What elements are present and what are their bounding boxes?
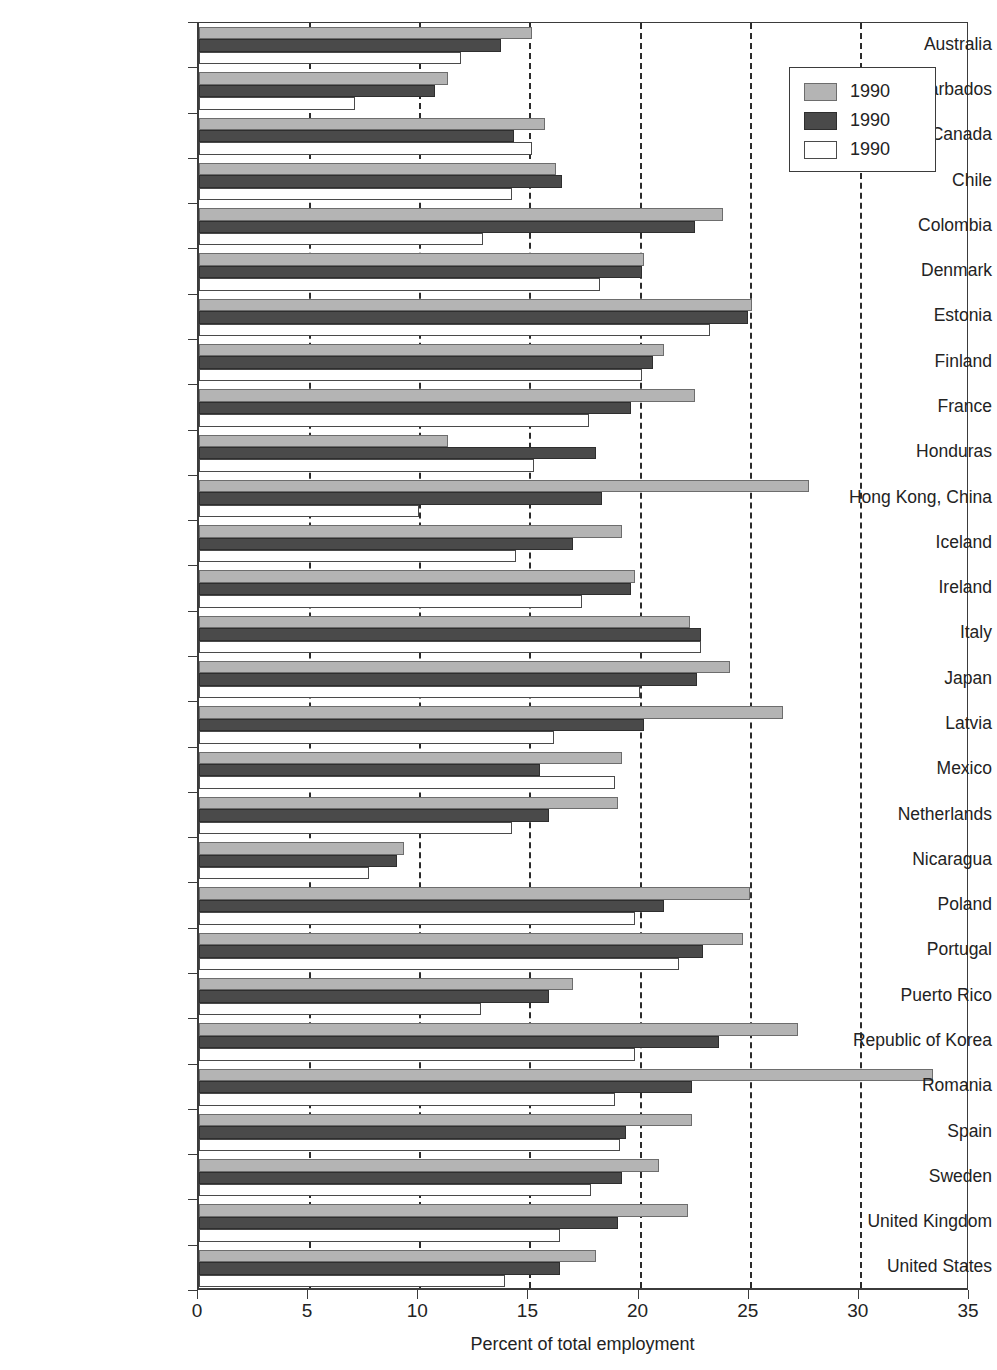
legend-label: 1990 <box>850 139 890 160</box>
bar <box>199 661 730 673</box>
y-tick <box>188 1154 197 1155</box>
bar <box>199 945 703 957</box>
bar <box>199 1159 659 1171</box>
y-tick <box>188 113 197 114</box>
bar <box>199 842 404 854</box>
x-tick <box>527 1290 528 1299</box>
bar <box>199 344 664 356</box>
gridline-25 <box>750 23 752 1288</box>
category-label: Portugal <box>807 939 992 960</box>
category-label: Sweden <box>807 1166 992 1187</box>
bar <box>199 221 695 233</box>
category-label: Netherlands <box>807 804 992 825</box>
bar <box>199 752 622 764</box>
bar <box>199 595 582 607</box>
bar <box>199 706 783 718</box>
y-tick <box>188 1018 197 1019</box>
category-label: Ireland <box>807 577 992 598</box>
y-tick <box>188 158 197 159</box>
bar <box>199 414 589 426</box>
category-label: Honduras <box>807 441 992 462</box>
x-tick <box>307 1290 308 1299</box>
bar <box>199 867 369 879</box>
y-tick <box>188 882 197 883</box>
x-tick-label: 25 <box>718 1300 778 1322</box>
x-axis-title: Percent of total employment <box>197 1334 968 1355</box>
chart-legend: 1990 1990 1990 <box>789 67 936 172</box>
bar <box>199 97 355 109</box>
bar <box>199 356 653 368</box>
bar <box>199 480 809 492</box>
bar <box>199 616 690 628</box>
bar <box>199 233 483 245</box>
legend-label: 1990 <box>850 81 890 102</box>
y-tick <box>188 294 197 295</box>
category-label: Mexico <box>807 758 992 779</box>
bar <box>199 253 644 265</box>
category-label: United Kingdom <box>807 1211 992 1232</box>
y-tick <box>188 475 197 476</box>
bar <box>199 641 701 653</box>
legend-label: 1990 <box>850 110 890 131</box>
bar <box>199 27 532 39</box>
y-tick <box>188 973 197 974</box>
x-tick-label: 30 <box>828 1300 888 1322</box>
bar <box>199 958 679 970</box>
bar <box>199 1262 560 1274</box>
category-label: Finland <box>807 351 992 372</box>
y-tick <box>188 520 197 521</box>
bar <box>199 142 532 154</box>
bar <box>199 324 710 336</box>
x-tick <box>968 1290 969 1299</box>
x-tick-label: 0 <box>167 1300 227 1322</box>
legend-item: 1990 <box>804 77 935 106</box>
category-label: Latvia <box>807 713 992 734</box>
bar <box>199 39 501 51</box>
bar <box>199 505 419 517</box>
bar <box>199 1003 481 1015</box>
y-tick <box>188 339 197 340</box>
bar <box>199 130 514 142</box>
bar <box>199 118 545 130</box>
category-label: Colombia <box>807 215 992 236</box>
bar <box>199 278 600 290</box>
y-tick <box>188 792 197 793</box>
category-label: Chile <box>807 170 992 191</box>
bar <box>199 1081 692 1093</box>
bar <box>199 570 635 582</box>
bar <box>199 266 642 278</box>
bar <box>199 978 573 990</box>
bar <box>199 538 573 550</box>
y-tick <box>188 67 197 68</box>
y-tick <box>188 22 197 23</box>
y-tick <box>188 747 197 748</box>
y-tick <box>188 1109 197 1110</box>
bar <box>199 188 512 200</box>
legend-swatch-white <box>804 141 837 159</box>
category-label: Japan <box>807 668 992 689</box>
y-tick <box>188 656 197 657</box>
bar <box>199 389 695 401</box>
bar <box>199 52 461 64</box>
bar <box>199 435 448 447</box>
bar <box>199 1114 692 1126</box>
gridline-30 <box>860 23 862 1288</box>
category-label: Iceland <box>807 532 992 553</box>
legend-item: 1990 <box>804 135 935 164</box>
bar <box>199 369 642 381</box>
bar <box>199 900 664 912</box>
bar <box>199 299 752 311</box>
bar <box>199 776 615 788</box>
category-label: France <box>807 396 992 417</box>
bar <box>199 492 602 504</box>
x-tick-label: 10 <box>387 1300 447 1322</box>
bar <box>199 550 516 562</box>
y-tick <box>188 611 197 612</box>
bar <box>199 887 750 899</box>
x-tick <box>858 1290 859 1299</box>
y-tick <box>188 701 197 702</box>
bar <box>199 809 549 821</box>
y-tick <box>188 384 197 385</box>
bar <box>199 1036 719 1048</box>
bar <box>199 402 631 414</box>
